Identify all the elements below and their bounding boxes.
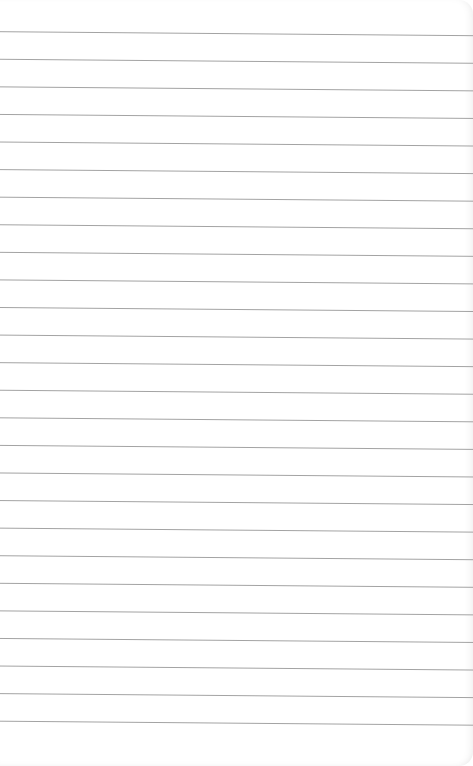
lined-paper-page (0, 0, 473, 766)
ruled-line (0, 170, 473, 174)
ruled-line (0, 694, 473, 698)
ruled-line (0, 308, 473, 312)
ruled-line (0, 32, 473, 36)
ruled-line (0, 335, 473, 339)
ruled-line (0, 473, 473, 477)
ruled-line (0, 142, 473, 146)
ruled-lines (0, 0, 473, 766)
ruled-line (0, 197, 473, 201)
ruled-line (0, 225, 473, 229)
ruled-line (0, 666, 473, 670)
ruled-line (0, 638, 473, 642)
ruled-line (0, 114, 473, 118)
ruled-line (0, 418, 473, 422)
ruled-line (0, 252, 473, 256)
ruled-line (0, 501, 473, 505)
ruled-line (0, 59, 473, 63)
ruled-line (0, 445, 473, 449)
ruled-line (0, 721, 473, 725)
ruled-line (0, 583, 473, 587)
ruled-line (0, 87, 473, 91)
ruled-line (0, 390, 473, 394)
ruled-line (0, 363, 473, 367)
ruled-line (0, 611, 473, 615)
ruled-line (0, 556, 473, 560)
ruled-line (0, 528, 473, 532)
ruled-line (0, 280, 473, 284)
